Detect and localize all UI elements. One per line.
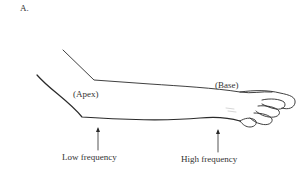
high-frequency-label: High frequency	[181, 154, 237, 164]
forearm-lower-outline	[37, 75, 240, 121]
low-frequency-label: Low frequency	[62, 152, 117, 162]
apex-label: (Apex)	[73, 89, 99, 99]
upper-arm-outline	[63, 50, 272, 93]
arm-illustration	[0, 0, 306, 170]
base-label: (Base)	[215, 80, 239, 90]
thumb	[240, 118, 256, 127]
